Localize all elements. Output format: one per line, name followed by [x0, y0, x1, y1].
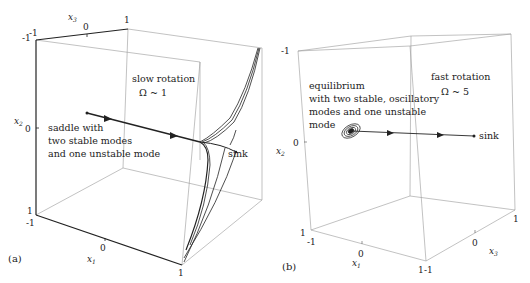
tick-b-x1-mid: 0 — [358, 249, 364, 259]
sink-point — [473, 135, 476, 138]
sink-label-b: sink — [479, 130, 499, 141]
tick-b-x3-end: 1 — [513, 214, 519, 224]
start-annotation-a-line1: saddle with — [48, 122, 104, 133]
panel-a-axes — [36, 29, 182, 265]
regime-param-b: Ω ~ 5 — [441, 86, 469, 97]
regime-param-a: Ω ~ 1 — [139, 87, 167, 98]
tick-a-x1-start: -1 — [26, 218, 35, 228]
regime-title-a: slow rotation — [132, 73, 195, 84]
tick-b-x3-start: -1 — [424, 265, 433, 275]
axis-label-a-x1: x1 — [87, 254, 96, 265]
start-annotation-a-line3: and one unstable mode — [48, 148, 161, 159]
tick-b-x3-mid: 0 — [472, 238, 478, 248]
panel-b-trajectory — [352, 131, 474, 136]
tick-b-x2-top: -1 — [281, 46, 290, 56]
tick-a-x1-end: 1 — [178, 268, 184, 278]
tick-a-x3-end: 1 — [124, 15, 130, 25]
axis-label-b-x1: x1 — [352, 258, 361, 269]
arrow-icon — [104, 115, 112, 122]
axis-label-a-x3: x3 — [68, 12, 77, 23]
panel-a-box — [36, 29, 262, 265]
panel-label-a: (a) — [8, 253, 22, 264]
panel-b-ticks — [304, 142, 475, 244]
figure-canvas: slow rotation Ω ~ 1 saddle with two stab… — [0, 0, 530, 283]
tick-a-x1-mid: 0 — [100, 243, 106, 253]
panel-b: fast rotation Ω ~ 5 equilibrium with two… — [276, 34, 519, 275]
tick-a-x2-bottom: 1 — [27, 206, 33, 216]
start-annotation-b-line2: with two stable, oscillatory — [309, 93, 440, 104]
tick-a-x3-mid: 0 — [83, 22, 89, 32]
tick-a-x2-mid: 0 — [25, 124, 31, 134]
axis-label-b-x3: x3 — [489, 246, 498, 257]
arrow-icon — [170, 132, 178, 139]
panel-label-b: (b) — [282, 261, 296, 272]
regime-title-b: fast rotation — [431, 71, 490, 82]
arrow-icon — [387, 130, 394, 136]
sink-label-a: sink — [228, 148, 248, 159]
start-annotation-b-line1: equilibrium — [309, 80, 365, 91]
tick-b-x1-start: -1 — [307, 237, 316, 247]
tick-b-x2-mid: 0 — [293, 138, 299, 148]
start-annotation-b-line4: mode — [309, 119, 336, 130]
saddle-point — [86, 112, 89, 115]
tick-b-x1-end: 1 — [418, 265, 424, 275]
tick-a-x2-top: -1 — [29, 28, 38, 38]
panel-a: slow rotation Ω ~ 1 saddle with two stab… — [8, 12, 262, 278]
panel-b-box — [298, 34, 515, 261]
axis-label-b-x2: x2 — [276, 146, 285, 157]
start-annotation-b-line3: modes and one unstable — [309, 106, 426, 117]
tick-b-x2-bottom: 1 — [300, 228, 306, 238]
axis-label-a-x2: x2 — [14, 116, 23, 127]
arrow-icon — [437, 132, 444, 138]
start-annotation-a-line2: two stable modes — [48, 135, 132, 146]
